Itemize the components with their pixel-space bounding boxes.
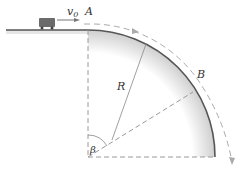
label-a: A bbox=[84, 5, 93, 18]
label-r: R bbox=[116, 80, 125, 93]
car-icon bbox=[39, 18, 55, 30]
trajectory-arrow-2 bbox=[229, 157, 235, 165]
label-b: B bbox=[196, 68, 205, 81]
label-v0: v0 bbox=[67, 5, 78, 19]
circular-hill-diagram: v0 A B R β bbox=[0, 0, 235, 175]
hill-body bbox=[88, 30, 215, 157]
label-beta: β bbox=[89, 144, 96, 155]
